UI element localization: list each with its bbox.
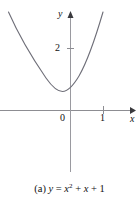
y-tick-label-2: 2 [55, 43, 60, 53]
origin-tick-label: 0 [60, 113, 65, 123]
y-axis-label: y [58, 9, 62, 19]
figure-caption: (a) y = x2 + x + 1 [0, 183, 139, 195]
y-axis-arrow-icon [68, 11, 74, 18]
x-axis-label: x [130, 114, 134, 124]
x-tick-label-1: 1 [100, 113, 105, 123]
parabola-plot [0, 0, 139, 176]
caption-prefix: (a) [34, 183, 46, 194]
figure-panel: y x 2 0 1 (a) y = x2 + x + 1 [0, 0, 139, 204]
